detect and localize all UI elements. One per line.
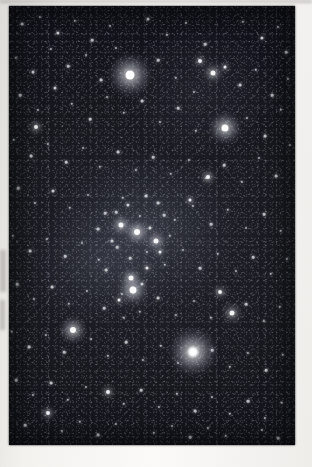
bright-star-sword-star [129, 276, 134, 281]
field-star [245, 227, 247, 229]
bright-star-zeta-tauri [198, 59, 202, 63]
field-star [152, 156, 155, 159]
field-star [147, 18, 150, 21]
scan-edge-artifact-top [0, 0, 312, 3]
field-star [264, 135, 267, 138]
field-star [193, 300, 195, 302]
bright-star-meissa [211, 71, 216, 76]
field-star [265, 369, 268, 372]
bright-star-alnilam [119, 223, 124, 228]
field-star [109, 25, 111, 27]
bright-star-mintaka [134, 229, 140, 235]
field-star [189, 436, 192, 439]
field-star [24, 424, 27, 427]
field-star [90, 338, 92, 340]
bright-star-cursa [34, 125, 38, 129]
field-star [239, 84, 242, 87]
bright-star-iota-orionis [118, 299, 121, 302]
bright-star-delta-leporis [106, 390, 110, 394]
field-star [63, 351, 66, 354]
field-star [247, 400, 250, 403]
field-star [252, 256, 255, 259]
faint-star-dust-layer [9, 6, 295, 445]
field-star [117, 151, 120, 154]
field-star [116, 246, 119, 249]
field-star [105, 269, 108, 272]
orion-photograph [9, 6, 295, 445]
field-star [115, 211, 118, 214]
scanned-photo-page [0, 0, 312, 467]
bright-star-betelgeuse [126, 71, 135, 80]
field-star [106, 96, 108, 98]
field-star [51, 286, 54, 289]
field-star [157, 297, 160, 300]
field-star [82, 147, 84, 149]
field-star [141, 100, 144, 103]
bright-star-bellatrix [222, 125, 229, 132]
field-star [103, 307, 106, 310]
field-star [210, 223, 213, 226]
field-star [211, 349, 214, 352]
bright-star-chi-orionis [224, 66, 227, 69]
bright-star-orion-nebula [130, 287, 137, 294]
bright-star-nu-orionis [189, 199, 192, 202]
field-star [177, 107, 180, 110]
scan-edge-artifact-left-lower [0, 300, 5, 330]
field-star [64, 255, 67, 258]
field-star [182, 249, 184, 251]
field-star [223, 164, 226, 167]
field-star [50, 382, 53, 385]
field-star [111, 240, 114, 243]
field-star [81, 242, 83, 244]
field-star [91, 39, 94, 42]
field-star [89, 118, 92, 121]
field-star [67, 65, 70, 68]
field-star [204, 43, 207, 46]
bright-star-phi-orionis [206, 175, 210, 179]
field-star [171, 425, 173, 427]
field-star [100, 79, 103, 82]
field-star [28, 346, 31, 349]
field-star [194, 410, 197, 413]
field-star [21, 23, 24, 26]
field-star [85, 386, 87, 388]
field-star [97, 228, 100, 231]
bright-star-rigel [188, 347, 198, 357]
field-star [129, 257, 132, 260]
field-star [125, 341, 128, 344]
field-star [271, 94, 274, 97]
scan-edge-artifact-left [0, 250, 6, 292]
field-star [285, 51, 288, 54]
field-star [199, 267, 202, 270]
field-star [157, 202, 160, 205]
field-star [275, 175, 278, 178]
bright-star-eta-leporis [230, 311, 235, 316]
bright-star-saiph [70, 327, 76, 333]
bright-star-alnitak [154, 239, 159, 244]
field-star [157, 59, 160, 62]
field-star [141, 283, 144, 286]
field-star [52, 190, 55, 193]
field-star [16, 283, 19, 286]
field-star [145, 195, 148, 198]
field-star [19, 94, 22, 97]
field-star [245, 303, 248, 306]
field-star [30, 155, 33, 158]
field-star [140, 389, 143, 392]
field-star [97, 434, 100, 437]
field-star [32, 71, 35, 74]
field-star [54, 87, 57, 90]
field-star [85, 54, 87, 56]
field-star [177, 362, 179, 364]
field-star [263, 213, 266, 216]
bright-star-tau-orionis [218, 290, 222, 294]
field-star [277, 437, 280, 440]
field-star [104, 212, 107, 215]
bright-star-upsilon-orionis [146, 267, 149, 270]
bright-star-sigma-orionis [159, 251, 162, 254]
bright-star-pi-orionis [46, 411, 50, 415]
field-star [29, 250, 32, 253]
field-star [87, 194, 89, 196]
field-star [17, 187, 20, 190]
field-star [163, 214, 166, 217]
